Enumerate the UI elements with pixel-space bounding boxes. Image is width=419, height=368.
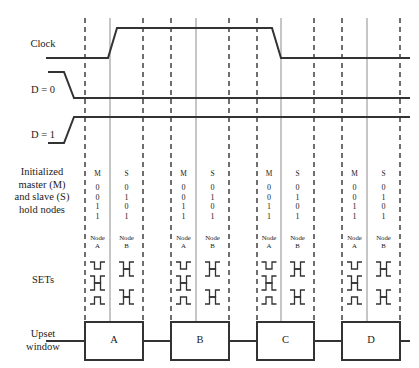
group-d-node-a-set-4 [347, 297, 362, 304]
group-a-node-b-set-2 [119, 269, 134, 276]
group-b-node-b-set-2 [205, 269, 220, 276]
group-a-slave-header: S [107, 170, 147, 179]
group-c-node-b-header: Node B [278, 234, 318, 250]
row-label-hold-nodes: Initialized master (M) and slave (S) hol… [0, 166, 84, 216]
group-c-upset-label: C [257, 334, 314, 346]
group-a-node-a-set-3 [90, 283, 105, 290]
row-label-upset-window: Upset window [4, 328, 82, 353]
group-a-node-b-header: Node B [107, 234, 147, 250]
group-d-node-a-set-3 [347, 283, 362, 290]
group-b-node-a-set-4 [176, 297, 191, 304]
group-b-node-a-set-3 [176, 283, 191, 290]
group-a-node-a-set-2 [90, 276, 105, 283]
group-b-upset-label: B [171, 334, 229, 346]
set-pulse-glyphs [90, 262, 391, 304]
group-b-node-b-header: Node B [193, 234, 233, 250]
group-c-node-a-set-2 [262, 276, 277, 283]
group-d-upset-label: D [342, 334, 400, 346]
group-a-slave-values: 0 1 0 1 [107, 183, 147, 221]
solid-divider-lines [110, 18, 367, 322]
group-d-slave-values: 0 1 0 1 [364, 183, 404, 221]
waveform-traces [46, 28, 410, 143]
group-b-node-a-set-2 [176, 276, 191, 283]
group-a-node-a-set-1 [90, 262, 105, 269]
group-d-slave-header: S [364, 170, 404, 179]
group-a-node-b-set-1 [119, 262, 134, 269]
group-b-slave-values: 0 1 0 1 [193, 183, 233, 221]
clock-waveform [46, 28, 410, 58]
group-a-upset-label: A [85, 334, 143, 346]
group-c-node-b-set-1 [290, 262, 305, 269]
group-d-node-b-set-1 [376, 262, 391, 269]
row-label-clock: Clock [4, 38, 82, 51]
group-b-slave-header: S [193, 170, 233, 179]
group-c-node-b-set-3 [290, 290, 305, 297]
group-d-node-a-set-1 [347, 262, 362, 269]
group-a-node-b-set-4 [119, 297, 134, 304]
group-c-node-a-set-3 [262, 283, 277, 290]
group-c-slave-header: S [278, 170, 318, 179]
group-d-node-b-set-2 [376, 269, 391, 276]
group-c-node-b-set-4 [290, 297, 305, 304]
timing-diagram-figure: Clock D = 0 D = 1 Initialized master (M)… [0, 0, 419, 368]
group-c-node-a-set-1 [262, 262, 277, 269]
row-label-d-zero: D = 0 [4, 84, 82, 97]
row-label-d-one: D = 1 [4, 129, 82, 142]
group-a-node-b-set-3 [119, 290, 134, 297]
group-c-slave-values: 0 1 0 1 [278, 183, 318, 221]
group-b-node-b-set-4 [205, 297, 220, 304]
group-a-node-a-set-4 [90, 297, 105, 304]
group-c-node-b-set-2 [290, 269, 305, 276]
group-c-node-a-set-4 [262, 297, 277, 304]
group-d-node-a-set-2 [347, 276, 362, 283]
group-b-node-a-set-1 [176, 262, 191, 269]
row-label-sets: SETs [4, 274, 82, 287]
group-b-node-b-set-3 [205, 290, 220, 297]
group-d-node-b-header: Node B [364, 234, 404, 250]
group-d-node-b-set-3 [376, 290, 391, 297]
group-b-node-b-set-1 [205, 262, 220, 269]
group-d-node-b-set-4 [376, 297, 391, 304]
